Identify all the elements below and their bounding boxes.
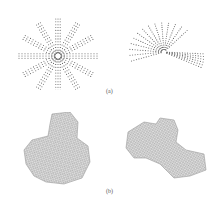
point-cloud-right	[120, 18, 210, 83]
point-cloud-left-plot	[12, 10, 102, 90]
point-cloud-right-plot	[120, 18, 210, 83]
mesh-right-plot	[124, 116, 208, 180]
mesh-left-plot	[22, 112, 94, 186]
mesh-right	[124, 116, 208, 180]
label-a: (a)	[106, 88, 113, 94]
point-cloud-left	[12, 10, 102, 90]
mesh-left	[22, 112, 94, 186]
label-b: (b)	[106, 188, 113, 194]
